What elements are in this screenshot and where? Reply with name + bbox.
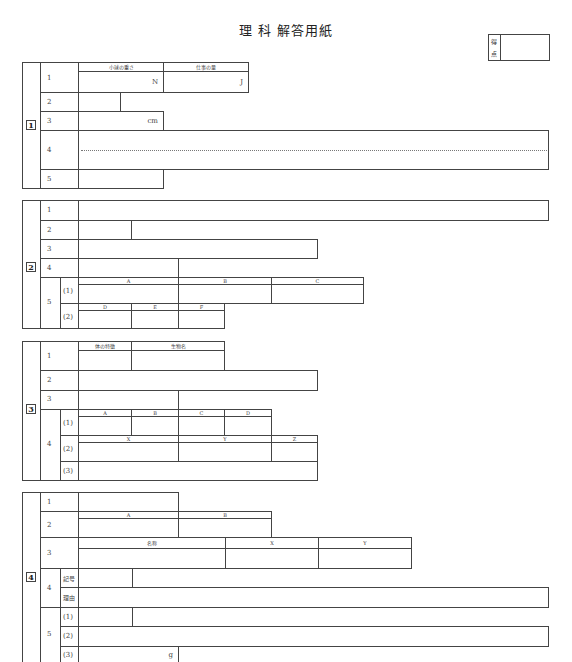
s4-q1-input[interactable] [78,492,179,512]
s4-q3-x-input[interactable] [225,548,319,569]
unit-gram: g [169,651,173,659]
s4-q2-b-input[interactable] [178,518,272,538]
s4-q5-2-input[interactable] [78,626,549,647]
s4-row5-label: 5 [40,607,61,662]
s4-row1-label: 1 [40,492,79,512]
s4-row2-label: 2 [40,511,79,538]
s4-q4-symbol-input[interactable] [78,568,133,588]
s4-q4-reason-label: 理由 [60,587,79,608]
s4-row3-label: 3 [40,537,79,569]
s4-q5-sub1-label: (1) [60,607,79,627]
s4-q3-name-input[interactable] [78,548,226,569]
s4-q5-sub2-label: (2) [60,626,79,647]
s4-q2-a-input[interactable] [78,518,179,538]
section-4-number: 4 [26,572,36,582]
s4-q3-y-input[interactable] [318,548,412,569]
s4-q5-3-input[interactable]: g [78,646,179,662]
s4-q5-1-input[interactable] [78,607,133,627]
s4-q4-symbol-label: 記号 [60,568,79,588]
s4-row4-label: 4 [40,568,61,608]
s4-q5-sub3-label: (3) [60,646,79,662]
s4-q4-reason-input[interactable] [78,587,549,608]
